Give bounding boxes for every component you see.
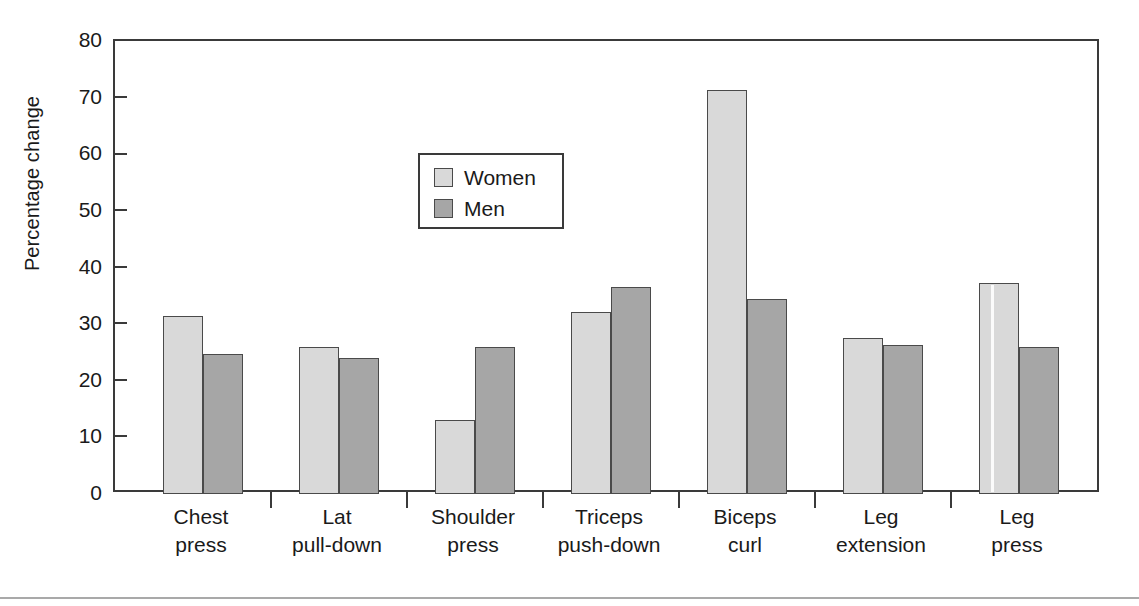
chart-legend: Women Men [418, 153, 564, 229]
legend-swatch-women-icon [434, 168, 453, 187]
y-tick-label-20: 20 [52, 369, 102, 390]
page-bottom-rule [0, 597, 1139, 599]
legend-label-women: Women [464, 167, 536, 188]
legend-swatch-men-icon [434, 199, 453, 218]
bar-women-shoulder-press [435, 420, 475, 494]
y-tick-50 [115, 209, 127, 211]
bar-men-leg-press [1019, 347, 1059, 494]
y-tick-label-80: 80 [52, 29, 102, 50]
chart-figure: Percentage change 80 70 60 50 40 30 20 1… [0, 0, 1139, 606]
bar-women-chest-press [163, 316, 203, 494]
bar-men-shoulder-press [475, 347, 515, 494]
bar-women-leg-press [979, 283, 1019, 494]
y-tick-20 [115, 379, 127, 381]
plot-area: Women Men [113, 39, 1099, 492]
bar-men-biceps-curl [747, 299, 787, 494]
y-axis-title: Percentage change [21, 34, 44, 334]
y-tick-60 [115, 153, 127, 155]
bar-women-triceps-push-down [571, 312, 611, 494]
y-tick-10 [115, 435, 127, 437]
y-tick-label-60: 60 [52, 142, 102, 163]
x-category-line-1: Leg [922, 503, 1112, 531]
bar-men-triceps-push-down [611, 287, 651, 494]
bar-men-lat-pull-down [339, 358, 379, 494]
y-tick-label-30: 30 [52, 312, 102, 333]
y-tick-label-70: 70 [52, 86, 102, 107]
bar-women-lat-pull-down [299, 347, 339, 494]
bar-men-leg-extension [883, 345, 923, 494]
y-tick-70 [115, 96, 127, 98]
legend-label-men: Men [464, 198, 505, 219]
y-tick-label-40: 40 [52, 256, 102, 277]
bar-women-biceps-curl [707, 90, 747, 494]
y-tick-30 [115, 322, 127, 324]
legend-item-men: Men [434, 193, 562, 224]
scan-artifact-line [991, 285, 994, 492]
y-tick-label-0: 0 [52, 482, 102, 503]
y-tick-40 [115, 266, 127, 268]
x-category-line-2: press [922, 531, 1112, 559]
bar-women-leg-extension [843, 338, 883, 494]
y-tick-label-10: 10 [52, 425, 102, 446]
y-tick-label-50: 50 [52, 199, 102, 220]
x-category-label-leg-press: Leg press [922, 503, 1112, 559]
bar-men-chest-press [203, 354, 243, 494]
legend-item-women: Women [434, 162, 562, 193]
